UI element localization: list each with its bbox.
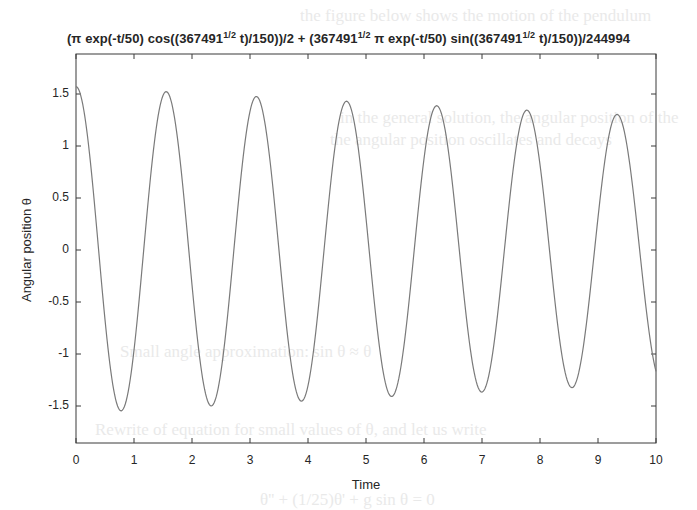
matlab-figure: the figure below shows the motion of the…	[0, 0, 697, 510]
theta-curve	[76, 87, 656, 411]
x-tick-label: 5	[363, 453, 370, 467]
y-tick-label: -1.5	[48, 398, 69, 412]
x-tick-label: 0	[73, 453, 80, 467]
plot-area	[0, 0, 697, 510]
x-tick-label: 10	[649, 453, 662, 467]
y-tick-label: 1	[62, 138, 69, 152]
x-tick-label: 3	[247, 453, 254, 467]
x-tick-label: 8	[537, 453, 544, 467]
x-tick-label: 9	[595, 453, 602, 467]
x-tick-label: 4	[305, 453, 312, 467]
x-tick-label: 6	[421, 453, 428, 467]
y-tick-label: -0.5	[48, 294, 69, 308]
x-tick-label: 2	[189, 453, 196, 467]
x-tick-label: 7	[479, 453, 486, 467]
y-tick-label: -1	[58, 346, 69, 360]
x-axis-label: Time	[352, 477, 380, 492]
x-tick-label: 1	[131, 453, 138, 467]
y-tick-label: 1.5	[52, 86, 69, 100]
y-tick-label: 0	[62, 242, 69, 256]
y-tick-label: 0.5	[52, 190, 69, 204]
y-axis-label: Angular position θ	[19, 198, 34, 302]
